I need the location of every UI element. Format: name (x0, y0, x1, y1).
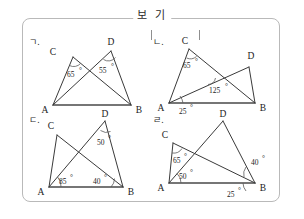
angle-label-4-1: 65 (173, 156, 181, 165)
vertex-label-D-2: D (248, 51, 255, 61)
angle-unit-2-2: ° (225, 82, 228, 91)
angle-unit-2-1: ° (195, 57, 198, 66)
angle-label-3-2: 85 (59, 177, 67, 186)
vertex-label-D-3: D (102, 109, 109, 119)
figure-drawing-1: C D A B 65 ° 55 ° (27, 35, 153, 115)
figure-cell-1: ㄱ. C D A B 65 ° 55 ° (27, 35, 153, 115)
angle-label-2-2: 125 (209, 86, 221, 95)
angle-unit-4-3: ° (262, 154, 265, 163)
vertex-label-C-4: C (162, 130, 168, 140)
vertex-label-C-3: C (48, 121, 54, 131)
vertex-label-A-2: A (158, 103, 165, 113)
vertex-label-A-3: A (38, 187, 45, 197)
angle-unit-1-2: ° (111, 62, 114, 71)
angle-label-1-2: 55 (99, 66, 107, 75)
vertex-label-B-3: B (128, 187, 134, 197)
boxi-tick-right-icon (199, 30, 200, 40)
vertex-label-B-2: B (260, 103, 266, 113)
worksheet-page: ㄱ. C D A B 65 ° 55 ° (0, 0, 304, 219)
vertex-label-C-2: C (182, 36, 188, 46)
angle-unit-3-1: ° (108, 134, 111, 143)
angle-unit-4-4: ° (238, 186, 241, 195)
angle-unit-3-2: ° (70, 173, 73, 182)
figure-drawing-3: C D A B 50 ° 85 ° 40 ° (27, 113, 153, 199)
vertex-label-A-4: A (158, 183, 165, 193)
figure-drawing-2: C D A B 65 ° 125 ° 25 ° (151, 35, 277, 115)
vertex-label-D-1: D (108, 37, 115, 47)
angle-label-1-1: 65 (67, 70, 75, 79)
angle-label-4-3: 40 (251, 158, 259, 167)
vertex-label-D-4: D (220, 109, 227, 119)
angle-unit-3-3: ° (104, 173, 107, 182)
boxi-frame: ㄱ. C D A B 65 ° 55 ° (22, 18, 280, 202)
figure-drawing-4: C D A B 65 ° 50 ° 40 ° 25 ° (151, 113, 277, 199)
angle-label-3-1: 50 (97, 138, 105, 147)
boxi-tick-left-icon (151, 30, 152, 40)
angle-unit-4-1: ° (184, 152, 187, 161)
figure-cell-2: ㄴ. C D A B 65 ° 125 ° (151, 35, 277, 115)
vertex-label-B-4: B (260, 183, 266, 193)
boxi-header-label: 보 기 (133, 9, 171, 23)
angle-unit-1-1: ° (79, 66, 82, 75)
angle-label-4-4: 25 (227, 190, 235, 199)
vertex-label-C-1: C (50, 47, 56, 57)
figure-cell-4: ㄹ. C D A B 65 ° 50 (151, 113, 277, 199)
angle-label-3-3: 40 (93, 177, 101, 186)
angle-label-4-2: 50 (179, 172, 187, 181)
figure-cell-3: ㄷ. C D A B 50 ° 85 ° 4 (27, 113, 153, 199)
angle-unit-4-2: ° (190, 168, 193, 177)
angle-label-2-1: 65 (183, 61, 191, 70)
angle-unit-2-3: ° (190, 103, 193, 112)
